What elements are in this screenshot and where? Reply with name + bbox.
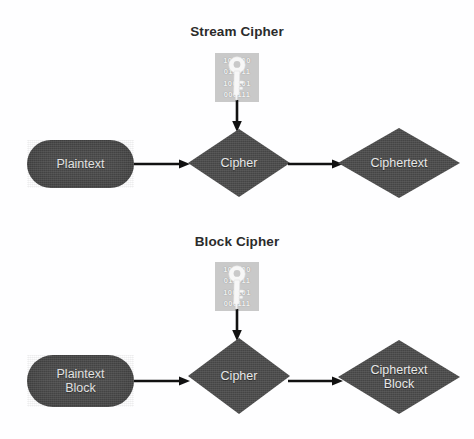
diamond-shape bbox=[188, 338, 290, 414]
texture-overlay bbox=[27, 140, 134, 188]
stream-ciphertext-node[interactable]: Ciphertext bbox=[338, 128, 460, 198]
texture-overlay bbox=[188, 129, 290, 197]
texture-overlay bbox=[27, 355, 134, 407]
block-arrow-plaintext-to-cipher bbox=[134, 376, 191, 386]
stream-cipher-node[interactable]: Cipher bbox=[188, 129, 290, 197]
block-cipher-title: Block Cipher bbox=[0, 234, 474, 249]
diagram-canvas: Stream Cipher 100100 011011 100101 00011… bbox=[0, 0, 474, 439]
block-plaintext-node[interactable]: Plaintext Block bbox=[27, 355, 134, 407]
block-key-panel: 100100 011011 100101 000111 bbox=[215, 262, 259, 311]
texture-overlay bbox=[338, 340, 460, 414]
stream-plaintext-node[interactable]: Plaintext bbox=[27, 140, 134, 188]
stream-arrow-cipher-to-ciphertext bbox=[288, 159, 344, 169]
block-plaintext-label: Plaintext Block bbox=[57, 367, 105, 395]
block-cipher-node[interactable]: Cipher bbox=[188, 338, 290, 414]
diamond-shape bbox=[338, 340, 460, 414]
key-icon bbox=[224, 54, 250, 102]
stream-cipher-title: Stream Cipher bbox=[0, 24, 474, 39]
block-ciphertext-node[interactable]: Ciphertext Block bbox=[338, 340, 460, 414]
key-icon bbox=[224, 263, 250, 311]
stream-key-panel: 100100 011011 100101 000111 bbox=[215, 53, 259, 102]
diamond-shape bbox=[338, 128, 460, 198]
texture-overlay bbox=[188, 338, 290, 414]
block-arrow-cipher-to-ciphertext bbox=[288, 376, 344, 386]
stream-arrow-plaintext-to-cipher bbox=[134, 159, 191, 169]
diamond-shape bbox=[188, 129, 290, 197]
texture-overlay bbox=[338, 128, 460, 198]
stream-plaintext-label: Plaintext bbox=[57, 157, 105, 171]
